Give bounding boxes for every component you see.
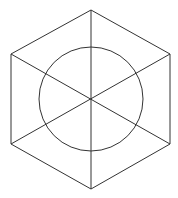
hexagon-diagram — [0, 0, 178, 198]
hexagon-diagonals — [11, 10, 170, 189]
